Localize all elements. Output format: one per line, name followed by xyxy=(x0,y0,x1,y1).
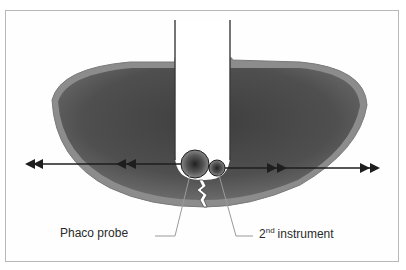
second-instrument-tip xyxy=(209,160,225,176)
second-instrument-number: 2 xyxy=(259,227,266,241)
phaco-probe-label: Phaco probe xyxy=(60,226,128,240)
second-instrument-text: instrument xyxy=(278,227,334,241)
phaco-probe-tip xyxy=(181,150,209,178)
second-instrument-label: 2ndinstrument xyxy=(259,226,334,241)
phaco-probe-text: Phaco probe xyxy=(60,226,128,240)
second-instrument-suffix: nd xyxy=(266,226,275,235)
